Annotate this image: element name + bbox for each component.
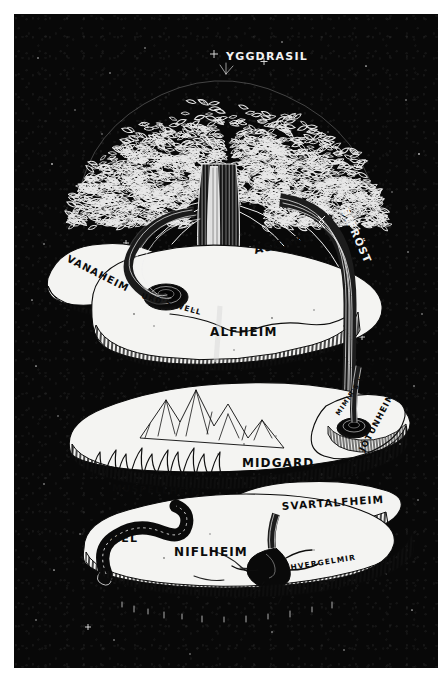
leaf bbox=[197, 98, 209, 107]
leaf bbox=[87, 160, 97, 166]
lower-tier bbox=[83, 494, 414, 622]
leaf bbox=[323, 140, 334, 145]
leaf bbox=[138, 131, 149, 140]
leaf bbox=[293, 113, 302, 121]
leaf bbox=[144, 127, 154, 131]
leaf bbox=[175, 118, 187, 126]
leaf bbox=[127, 213, 135, 216]
leaf bbox=[169, 116, 178, 122]
label-alfheim: ALFHEIM bbox=[210, 325, 277, 339]
leaf bbox=[297, 125, 308, 132]
leaf bbox=[73, 199, 83, 203]
leaf bbox=[299, 156, 307, 159]
leaf bbox=[194, 114, 205, 120]
leaf bbox=[108, 151, 117, 155]
leaf bbox=[169, 123, 179, 127]
leaf bbox=[238, 120, 248, 125]
leaf bbox=[186, 99, 196, 105]
leaf bbox=[99, 154, 106, 161]
leaf bbox=[229, 115, 238, 119]
leaf bbox=[320, 155, 329, 159]
leaf bbox=[88, 224, 98, 230]
illustration-page: YGGDRASILBIFRÖSTVANAHEIMASGARDURÐ'S WELL… bbox=[0, 0, 446, 676]
label-hel: HEL bbox=[111, 532, 138, 545]
leaf bbox=[209, 101, 220, 106]
leaf bbox=[181, 112, 190, 116]
leaf bbox=[238, 104, 248, 111]
realm-asgard-alfheim[interactable] bbox=[92, 245, 382, 371]
label-midgard: MIDGARD bbox=[242, 456, 314, 470]
leaf bbox=[205, 113, 212, 116]
label-yggdrasil: YGGDRASIL bbox=[225, 50, 308, 63]
yggdrasil-illustration: YGGDRASILBIFRÖSTVANAHEIMASGARDURÐ'S WELL… bbox=[14, 14, 438, 668]
leaf bbox=[307, 125, 318, 129]
label-niflheim: NIFLHEIM bbox=[174, 545, 248, 559]
realm-niflheim-hel[interactable] bbox=[83, 494, 414, 622]
illustration-plate: YGGDRASILBIFRÖSTVANAHEIMASGARDURÐ'S WELL… bbox=[14, 14, 438, 668]
